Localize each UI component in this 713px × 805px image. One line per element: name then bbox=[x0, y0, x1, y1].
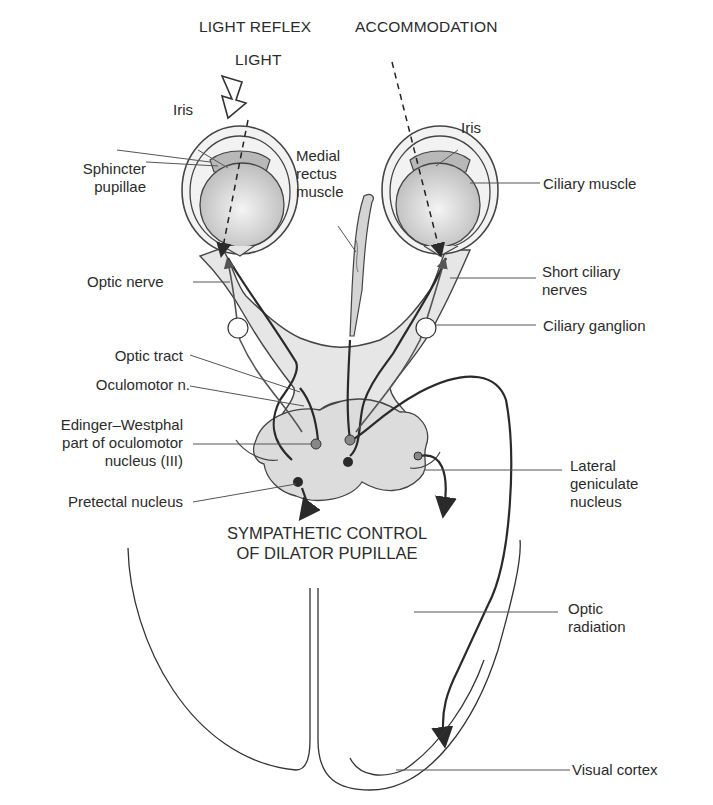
label-sympathetic-control: SYMPATHETIC CONTROL OF DILATOR PUPILLAE bbox=[212, 523, 442, 563]
label-optic-nerve: Optic nerve bbox=[87, 273, 164, 291]
midbrain bbox=[236, 399, 440, 500]
label-iris-right: Iris bbox=[461, 119, 481, 137]
label-short-ciliary-nerves: Short ciliary nerves bbox=[542, 263, 620, 299]
label-pretectal-nucleus: Pretectal nucleus bbox=[20, 493, 183, 511]
label-edinger-westphal: Edinger–Westphal part of oculomotor nucl… bbox=[20, 416, 183, 470]
pupillary-pathway-diagram bbox=[0, 0, 713, 805]
heading-light-reflex: LIGHT REFLEX bbox=[199, 18, 311, 36]
label-sphincter-pupillae: Sphincter pupillae bbox=[60, 160, 146, 196]
light-arrow-icon bbox=[222, 76, 246, 118]
label-visual-cortex: Visual cortex bbox=[572, 761, 658, 779]
left-eye bbox=[182, 126, 298, 256]
label-iris-left: Iris bbox=[173, 101, 193, 119]
medial-rectus-muscle bbox=[350, 194, 373, 336]
label-optic-radiation: Optic radiation bbox=[568, 600, 626, 636]
label-lateral-geniculate: Lateral geniculate nucleus bbox=[570, 457, 638, 511]
heading-light: LIGHT bbox=[235, 51, 282, 69]
label-oculomotor-nerve: Oculomotor n. bbox=[40, 376, 190, 394]
label-medial-rectus: Medial rectus muscle bbox=[296, 147, 344, 201]
label-ciliary-muscle: Ciliary muscle bbox=[543, 175, 636, 193]
label-optic-tract: Optic tract bbox=[40, 347, 183, 365]
label-ciliary-ganglion: Ciliary ganglion bbox=[543, 317, 646, 335]
heading-accommodation: ACCOMMODATION bbox=[355, 18, 498, 36]
right-eye bbox=[382, 126, 498, 256]
